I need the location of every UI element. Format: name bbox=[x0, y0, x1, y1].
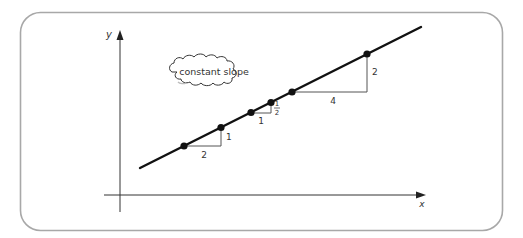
point bbox=[180, 142, 187, 149]
triangle-3-run-label: 4 bbox=[330, 96, 336, 106]
point bbox=[247, 109, 254, 116]
triangle-3-rise-label: 2 bbox=[372, 67, 378, 77]
callout-text: constant slope bbox=[179, 66, 249, 77]
y-axis-label: y bbox=[105, 29, 113, 40]
triangle-1-run-label: 2 bbox=[201, 150, 207, 160]
point bbox=[267, 99, 274, 106]
x-axis-label: x bbox=[418, 199, 425, 209]
point bbox=[288, 88, 295, 95]
fraction-denominator: 2 bbox=[275, 109, 279, 117]
triangle-2-run-label: 1 bbox=[258, 116, 264, 126]
point bbox=[217, 124, 224, 131]
triangle-1-rise-label: 1 bbox=[226, 132, 232, 142]
diagram-canvas: y x 2 1 1 1 2 4 2 constant slope bbox=[0, 0, 523, 238]
triangle-2-rise-fraction: 1 2 bbox=[274, 100, 280, 117]
point bbox=[363, 50, 370, 57]
slope-diagram: y x 2 1 1 1 2 4 2 constant slope bbox=[0, 0, 523, 238]
